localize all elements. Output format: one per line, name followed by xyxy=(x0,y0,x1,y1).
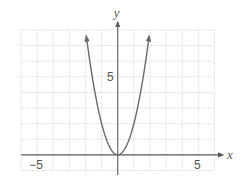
parabola-chart: −555xy xyxy=(0,0,241,180)
y-axis-label: y xyxy=(112,5,120,20)
x-axis-label: x xyxy=(226,147,233,162)
x-tick-label: −5 xyxy=(29,158,43,172)
y-tick-label: 5 xyxy=(107,70,114,84)
x-tick-label: 5 xyxy=(194,158,201,172)
